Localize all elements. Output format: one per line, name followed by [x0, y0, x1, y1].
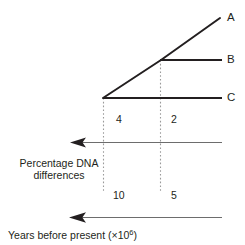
- tree-diagram-canvas: [0, 0, 245, 245]
- taxon-label-b: B: [227, 53, 235, 66]
- years-before-present-axis-caption: Years before present (×106): [8, 229, 137, 241]
- years-caption-prefix: Years before present (×10: [8, 229, 129, 241]
- branch-value-4: 4: [116, 113, 122, 125]
- percentage-dna-axis-caption-line1: Percentage DNA: [14, 157, 104, 169]
- taxon-label-c: C: [227, 91, 236, 104]
- percentage-dna-axis-caption: Percentage DNA differences: [14, 157, 104, 181]
- branch-line-root-to-ab-split: [103, 60, 161, 98]
- years-before-present-axis-arrow: [69, 212, 222, 223]
- time-value-10: 10: [113, 189, 125, 201]
- percentage-dna-axis-caption-line2: differences: [14, 169, 104, 181]
- years-caption-suffix: ): [134, 229, 138, 241]
- time-value-5: 5: [171, 189, 177, 201]
- branch-line-a: [161, 18, 220, 60]
- taxon-label-a: A: [227, 11, 235, 24]
- percentage-dna-axis-arrow: [70, 138, 222, 148]
- branch-value-2: 2: [171, 113, 177, 125]
- phylogenetic-tree-figure: A B C 4 2 10 5 Percentage DNA difference…: [0, 0, 245, 245]
